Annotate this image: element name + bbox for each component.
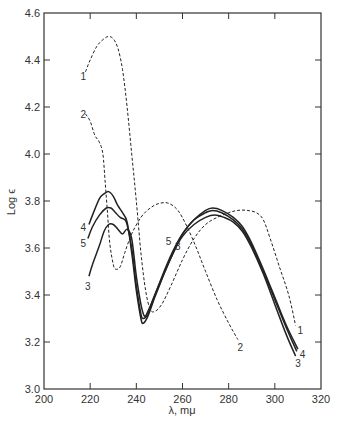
curve-3 bbox=[89, 215, 296, 356]
y-tick-label: 3.2 bbox=[25, 336, 40, 348]
curve-label-5: 5 bbox=[80, 238, 86, 249]
y-tick-label: 4.4 bbox=[25, 54, 40, 66]
x-tick-label: 240 bbox=[127, 393, 145, 405]
x-tick-label: 280 bbox=[219, 393, 237, 405]
curve-label-3: 3 bbox=[85, 281, 91, 292]
y-axis-label: Log ϵ bbox=[5, 189, 17, 215]
curve-label-4: 4 bbox=[300, 349, 306, 360]
x-tick-label: 220 bbox=[81, 393, 99, 405]
curve-label-4: 4 bbox=[80, 222, 86, 233]
plot-frame bbox=[44, 13, 321, 389]
y-tick-label: 3.6 bbox=[25, 242, 40, 254]
spectrum-curves bbox=[86, 37, 298, 357]
x-axis: 200220240260280300320 bbox=[35, 13, 330, 405]
x-axis-label: λ, mμ bbox=[168, 404, 195, 416]
curve-1 bbox=[86, 37, 296, 326]
y-tick-label: 3.0 bbox=[25, 383, 40, 395]
y-tick-label: 4.6 bbox=[25, 7, 40, 19]
curve-2 bbox=[86, 114, 238, 340]
x-tick-label: 300 bbox=[266, 393, 284, 405]
curve-label-1: 1 bbox=[80, 71, 86, 82]
x-tick-label: 320 bbox=[312, 393, 330, 405]
curve-label-1: 1 bbox=[297, 325, 303, 336]
y-tick-label: 4.2 bbox=[25, 101, 40, 113]
y-axis: 3.03.23.43.63.84.04.24.44.6 bbox=[25, 7, 321, 395]
y-tick-label: 3.4 bbox=[25, 289, 40, 301]
curve-label-3: 3 bbox=[175, 241, 181, 252]
curve-label-2: 2 bbox=[80, 109, 86, 120]
curve-label-5: 5 bbox=[166, 236, 172, 247]
y-tick-label: 4.0 bbox=[25, 148, 40, 160]
curve-4 bbox=[89, 192, 298, 350]
curve-label-2: 2 bbox=[237, 342, 243, 353]
y-tick-label: 3.8 bbox=[25, 195, 40, 207]
curve-label-3: 3 bbox=[295, 358, 301, 369]
plot-area-border bbox=[44, 13, 321, 389]
absorption-spectrum-chart: 200220240260280300320 3.03.23.43.63.84.0… bbox=[0, 0, 337, 421]
